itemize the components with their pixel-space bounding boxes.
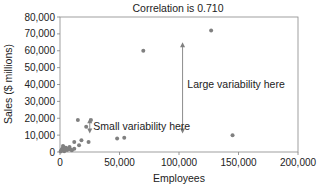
y-tick-label: 50,000: [24, 62, 55, 73]
data-point: [209, 29, 213, 33]
x-tick-label: 200,000: [280, 157, 317, 168]
data-point: [84, 125, 88, 129]
data-point: [72, 140, 76, 144]
data-point: [79, 138, 83, 142]
data-point: [231, 133, 235, 137]
data-point: [77, 143, 81, 147]
data-point: [89, 118, 93, 122]
data-point: [76, 118, 80, 122]
y-tick-label: 70,000: [24, 28, 55, 39]
data-point: [115, 137, 119, 141]
y-tick-label: 30,000: [24, 96, 55, 107]
x-tick-label: 50,000: [104, 157, 135, 168]
y-tick-label: 10,000: [24, 130, 55, 141]
scatter-chart: Correlation is 0.710 010,00020,00030,000…: [0, 0, 322, 189]
annotation-label: Large variability here: [187, 78, 285, 90]
annotations: Large variability hereSmall variability …: [87, 42, 285, 133]
chart-title: Correlation is 0.710: [132, 2, 223, 14]
y-tick-label: 0: [49, 147, 55, 158]
data-point: [68, 145, 72, 149]
x-axis: 050,000100,000150,000200,000: [57, 152, 316, 168]
y-axis-label: Sales ($ millions): [2, 44, 14, 124]
data-point: [87, 140, 91, 144]
data-point: [59, 149, 63, 153]
data-point: [122, 136, 126, 140]
y-tick-label: 80,000: [24, 12, 55, 23]
y-axis: 010,00020,00030,00040,00050,00060,00070,…: [24, 12, 60, 158]
data-points: [59, 29, 235, 154]
data-point: [72, 147, 76, 151]
data-point: [62, 149, 66, 153]
y-tick-label: 20,000: [24, 113, 55, 124]
x-tick-label: 0: [57, 157, 63, 168]
y-tick-label: 40,000: [24, 79, 55, 90]
data-point: [141, 49, 145, 53]
x-axis-label: Employees: [153, 172, 205, 184]
x-tick-label: 150,000: [220, 157, 257, 168]
annotation-label: Small variability here: [93, 120, 190, 132]
x-tick-label: 100,000: [161, 157, 198, 168]
y-tick-label: 60,000: [24, 45, 55, 56]
